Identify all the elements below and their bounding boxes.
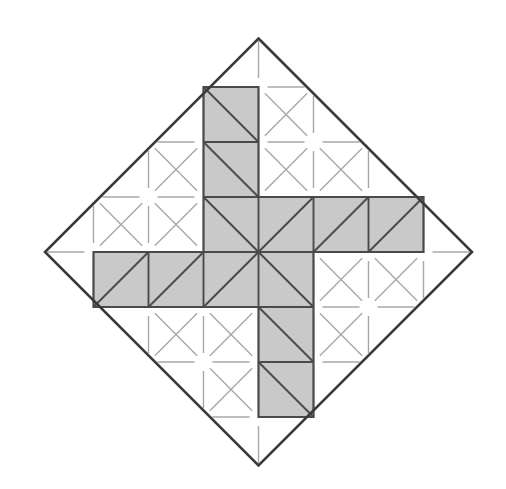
geometry-diagram: Pinwheel polyomino dissection inscribed … <box>0 0 506 489</box>
figure-root: Pinwheel polyomino dissection inscribed … <box>0 0 506 489</box>
